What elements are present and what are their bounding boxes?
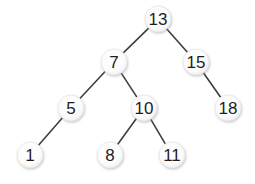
node-label: 10 (135, 99, 154, 118)
nodes-layer: 13715510181811 (17, 6, 241, 168)
edge-7-10 (121, 73, 137, 97)
tree-node-1: 1 (17, 142, 43, 168)
node-label: 5 (66, 99, 75, 118)
node-label: 15 (187, 53, 206, 72)
tree-node-11: 11 (159, 142, 185, 168)
tree-node-10: 10 (131, 95, 157, 121)
tree-node-18: 18 (215, 95, 241, 121)
node-label: 13 (149, 10, 168, 29)
edge-13-7 (123, 28, 148, 53)
tree-node-7: 7 (101, 49, 127, 75)
tree-node-15: 15 (183, 49, 209, 75)
edge-10-8 (118, 119, 137, 145)
node-label: 18 (219, 99, 238, 118)
edge-7-5 (80, 72, 105, 99)
edge-15-18 (203, 73, 220, 98)
node-label: 8 (105, 146, 114, 165)
node-label: 7 (109, 53, 118, 72)
tree-node-5: 5 (58, 95, 84, 121)
node-label: 11 (163, 146, 181, 165)
edge-10-11 (151, 119, 166, 144)
binary-tree-diagram: 13715510181811 (0, 0, 255, 184)
node-label: 1 (25, 146, 34, 165)
edge-5-1 (39, 118, 63, 145)
tree-node-8: 8 (97, 142, 123, 168)
tree-node-13: 13 (145, 6, 171, 32)
edges-layer (39, 28, 221, 145)
edge-13-15 (167, 29, 188, 53)
